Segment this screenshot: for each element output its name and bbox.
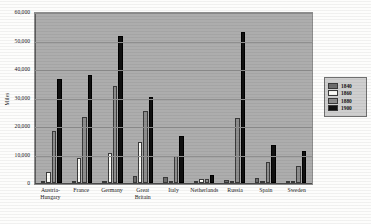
legend-swatch bbox=[328, 90, 338, 96]
bar-1840 bbox=[255, 178, 259, 183]
y-axis-tick-label: 30,000 bbox=[0, 95, 30, 101]
x-axis-line bbox=[35, 183, 312, 184]
x-axis-tick-label: Italy bbox=[158, 187, 189, 202]
bar-1900 bbox=[118, 36, 122, 183]
grid-line bbox=[35, 70, 312, 71]
x-axis-tick-label: Netherlands bbox=[189, 187, 220, 202]
x-axis-tick-label: Austria-Hungary bbox=[35, 187, 66, 202]
bar-1840 bbox=[41, 181, 45, 183]
y-axis-tick-label: 10,000 bbox=[0, 152, 30, 158]
plot-area bbox=[34, 12, 313, 185]
x-axis-tick-label: Russia bbox=[220, 187, 251, 202]
legend-item: 1840 bbox=[328, 83, 363, 89]
grid-line bbox=[35, 156, 312, 157]
bar-1900 bbox=[88, 75, 92, 183]
grid-line bbox=[35, 127, 312, 128]
legend-label: 1860 bbox=[341, 90, 352, 96]
x-axis-tick-label: France bbox=[66, 187, 97, 202]
legend-label: 1900 bbox=[341, 105, 352, 111]
bar-1880 bbox=[52, 131, 56, 183]
bar-1840 bbox=[194, 181, 198, 183]
legend-label: 1880 bbox=[341, 98, 352, 104]
bar-1860 bbox=[138, 142, 142, 183]
bar-1860 bbox=[77, 158, 81, 183]
bar-1860 bbox=[46, 172, 50, 183]
bar-1860 bbox=[199, 179, 203, 183]
bar-1900 bbox=[57, 79, 61, 183]
grid-line bbox=[35, 13, 312, 14]
bar-1840 bbox=[286, 181, 290, 183]
y-axis-tick-label: 20,000 bbox=[0, 123, 30, 129]
bar-1900 bbox=[210, 175, 214, 183]
bar-1860 bbox=[230, 181, 234, 183]
bar-1860 bbox=[260, 181, 264, 183]
legend-item: 1900 bbox=[328, 105, 363, 111]
bar-1880 bbox=[113, 86, 117, 183]
x-axis-tick-labels: Austria-HungaryFranceGermanyGreatBritain… bbox=[35, 187, 312, 202]
x-axis-tick-label: Sweden bbox=[281, 187, 312, 202]
bar-1840 bbox=[133, 176, 137, 183]
legend-item: 1880 bbox=[328, 98, 363, 104]
legend-swatch bbox=[328, 105, 338, 111]
bar-1840 bbox=[224, 180, 228, 183]
grid-line bbox=[35, 99, 312, 100]
bar-1860 bbox=[108, 153, 112, 183]
bar-1880 bbox=[174, 156, 178, 183]
legend-swatch bbox=[328, 98, 338, 104]
bar-1840 bbox=[163, 177, 167, 183]
y-axis-tick-label: 50,000 bbox=[0, 38, 30, 44]
y-axis-tick-label: 0 bbox=[0, 180, 30, 186]
bar-1900 bbox=[241, 32, 245, 183]
bar-1880 bbox=[143, 111, 147, 183]
legend-item: 1860 bbox=[328, 90, 363, 96]
chart-figure: Miles 010,00020,00030,00040,00050,00060,… bbox=[0, 0, 371, 224]
legend-label: 1840 bbox=[341, 83, 352, 89]
y-axis-tick-label: 60,000 bbox=[0, 9, 30, 15]
x-axis-tick-label: Germany bbox=[97, 187, 128, 202]
legend-swatch bbox=[328, 83, 338, 89]
bar-1900 bbox=[179, 136, 183, 183]
y-axis-tick-label: 40,000 bbox=[0, 66, 30, 72]
bar-1860 bbox=[169, 181, 173, 183]
grid-line bbox=[35, 42, 312, 43]
bar-1900 bbox=[271, 145, 275, 183]
bar-1880 bbox=[296, 166, 300, 183]
bar-1880 bbox=[266, 162, 270, 183]
x-axis-tick-label: Spain bbox=[250, 187, 281, 202]
bar-1840 bbox=[102, 181, 106, 183]
bar-1840 bbox=[72, 181, 76, 183]
bar-1860 bbox=[291, 181, 295, 183]
y-axis-tick-labels: 010,00020,00030,00040,00050,00060,000 bbox=[0, 0, 33, 224]
bar-1900 bbox=[149, 97, 153, 183]
chart-legend: 1840186018801900 bbox=[324, 77, 367, 117]
x-axis-tick-label: GreatBritain bbox=[127, 187, 158, 202]
bar-1880 bbox=[205, 179, 209, 183]
